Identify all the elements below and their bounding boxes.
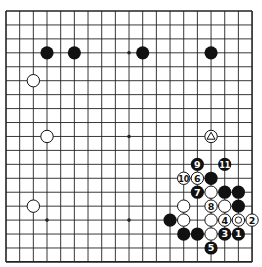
white-stone <box>178 200 190 212</box>
star-point-icon <box>127 135 131 139</box>
white-stone <box>232 214 244 226</box>
white-stone <box>219 200 231 212</box>
move-number-label: 1 <box>235 228 242 239</box>
star-point-icon <box>127 51 131 55</box>
move-number-label: 4 <box>221 215 228 226</box>
star-point-icon <box>45 218 49 222</box>
white-stone: 2 <box>246 214 258 226</box>
black-stone: 9 <box>191 158 204 171</box>
black-stone: 1 <box>232 227 245 240</box>
move-number-label: 2 <box>249 215 256 226</box>
black-stone <box>204 172 217 185</box>
black-stone <box>68 46 81 59</box>
white-stone: 4 <box>219 214 231 226</box>
move-number-label: 11 <box>219 161 231 170</box>
black-stone <box>232 200 245 213</box>
black-stone <box>177 227 190 240</box>
go-board: 9111067842315 <box>0 0 262 267</box>
white-stone <box>27 200 39 212</box>
black-stone: 5 <box>204 241 217 254</box>
black-stone <box>40 46 53 59</box>
white-stone <box>27 75 39 87</box>
white-stone <box>205 214 217 226</box>
move-number-label: 3 <box>221 228 228 239</box>
black-stone: 7 <box>191 186 204 199</box>
move-number-label: 5 <box>208 242 215 253</box>
white-stone <box>205 228 217 240</box>
black-stone: 3 <box>218 227 231 240</box>
white-stone: 10 <box>178 172 190 184</box>
white-stone <box>178 214 190 226</box>
white-stone: 8 <box>205 200 217 212</box>
black-stone <box>191 227 204 240</box>
move-number-label: 6 <box>194 173 201 184</box>
white-stone <box>205 130 217 142</box>
black-stone <box>204 46 217 59</box>
black-stone <box>218 186 231 199</box>
move-number-label: 9 <box>194 159 201 170</box>
white-stone <box>205 186 217 198</box>
star-point-icon <box>127 218 131 222</box>
move-number-label: 7 <box>194 187 201 198</box>
white-stone <box>41 130 53 142</box>
black-stone <box>232 186 245 199</box>
move-number-label: 8 <box>208 201 215 212</box>
white-stone: 6 <box>191 172 203 184</box>
black-stone <box>136 46 149 59</box>
move-number-label: 10 <box>178 175 190 184</box>
black-stone <box>163 214 176 227</box>
black-stone: 11 <box>218 158 231 171</box>
